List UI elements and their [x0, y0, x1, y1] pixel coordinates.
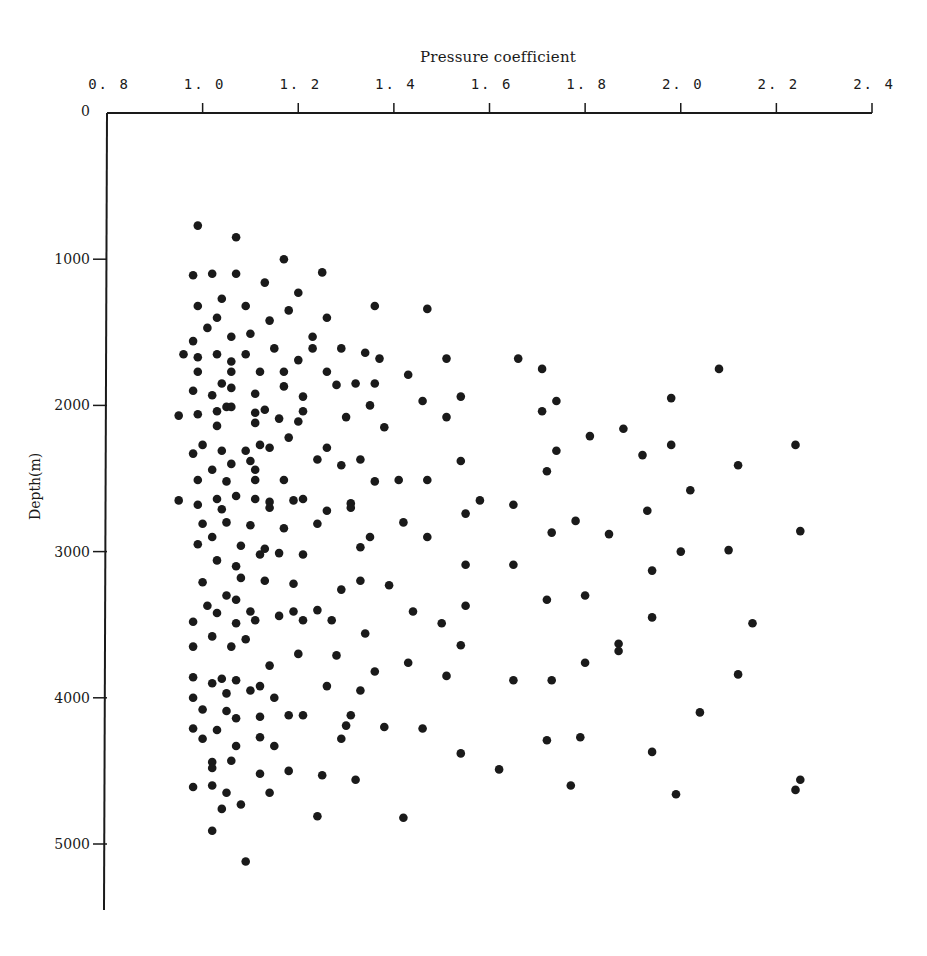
data-point: [648, 566, 657, 575]
data-point: [251, 616, 260, 625]
data-point: [299, 711, 308, 720]
data-point: [280, 476, 289, 485]
data-point: [222, 591, 231, 600]
data-point: [796, 527, 805, 536]
data-point: [227, 357, 236, 366]
data-point: [232, 714, 241, 723]
data-point: [299, 392, 308, 401]
data-point: [280, 368, 289, 377]
data-point: [189, 724, 198, 733]
data-point: [251, 465, 260, 474]
data-point: [394, 476, 403, 485]
data-point: [218, 294, 227, 303]
data-point: [246, 521, 255, 530]
data-point: [351, 379, 360, 388]
data-point: [227, 384, 236, 393]
data-point: [648, 613, 657, 622]
data-point: [241, 857, 250, 866]
data-point: [461, 509, 470, 518]
data-point: [356, 455, 365, 464]
data-point: [294, 650, 303, 659]
data-point: [222, 689, 231, 698]
data-point: [323, 313, 332, 322]
data-point: [265, 316, 274, 325]
data-point: [256, 682, 265, 691]
data-point: [323, 444, 332, 453]
data-point: [218, 379, 227, 388]
data-point: [232, 270, 241, 279]
data-point: [581, 658, 590, 667]
data-point: [327, 616, 336, 625]
data-point: [241, 350, 250, 359]
data-point: [275, 612, 284, 621]
data-point: [342, 413, 351, 422]
data-point: [457, 457, 466, 466]
data-point: [418, 397, 427, 406]
data-point: [399, 518, 408, 527]
data-point: [356, 686, 365, 695]
data-point: [299, 407, 308, 416]
data-point: [294, 356, 303, 365]
data-point: [715, 365, 724, 374]
data-point: [213, 407, 222, 416]
data-point: [194, 501, 203, 510]
data-point: [385, 581, 394, 590]
data-point: [232, 619, 241, 628]
data-point: [667, 441, 676, 450]
data-point: [203, 601, 212, 610]
data-point: [672, 790, 681, 799]
data-point: [189, 673, 198, 682]
data-point: [198, 705, 207, 714]
data-point: [323, 368, 332, 377]
data-point: [198, 441, 207, 450]
data-point: [275, 414, 284, 423]
data-point: [265, 503, 274, 512]
data-point: [280, 524, 289, 533]
data-point: [208, 391, 217, 400]
data-point: [246, 457, 255, 466]
data-point: [227, 642, 236, 651]
data-point: [638, 451, 647, 460]
data-point: [337, 734, 346, 743]
data-point: [189, 618, 198, 627]
data-point: [734, 461, 743, 470]
data-point: [552, 397, 561, 406]
data-point: [299, 616, 308, 625]
data-point: [213, 350, 222, 359]
data-point: [237, 542, 246, 551]
data-point: [404, 658, 413, 667]
data-point: [284, 767, 293, 776]
data-point: [261, 577, 270, 586]
data-point: [323, 682, 332, 691]
data-point: [547, 676, 556, 685]
data-point: [232, 562, 241, 571]
data-point: [366, 533, 375, 542]
data-point: [619, 425, 628, 434]
data-point: [241, 635, 250, 644]
data-point: [571, 517, 580, 526]
data-point: [371, 302, 380, 311]
data-point: [547, 528, 556, 537]
data-point: [399, 813, 408, 822]
data-point: [270, 742, 279, 751]
data-point: [213, 313, 222, 322]
data-point: [194, 410, 203, 419]
data-point: [284, 306, 293, 315]
data-point: [256, 733, 265, 742]
data-point: [371, 379, 380, 388]
data-point: [208, 827, 217, 836]
data-point: [313, 812, 322, 821]
data-points: [174, 221, 804, 866]
data-point: [457, 392, 466, 401]
data-point: [208, 270, 217, 279]
data-point: [189, 642, 198, 651]
data-point: [189, 783, 198, 792]
data-point: [189, 271, 198, 280]
data-point: [261, 278, 270, 287]
data-point: [543, 736, 552, 745]
data-point: [423, 305, 432, 314]
data-point: [218, 805, 227, 814]
data-point: [442, 672, 451, 681]
data-point: [251, 495, 260, 504]
data-point: [246, 686, 255, 695]
